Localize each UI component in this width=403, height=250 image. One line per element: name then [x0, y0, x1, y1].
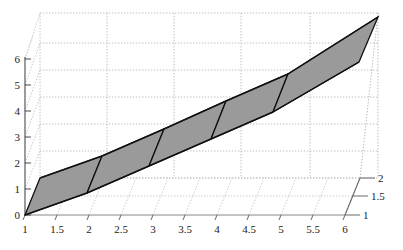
z-tick-label: 0 [15, 210, 21, 221]
x-tick-label: 1 [22, 224, 28, 235]
z-tick-label: 6 [15, 54, 21, 65]
z-tick-label: 3 [15, 132, 21, 143]
z-tick-label: 4 [15, 106, 21, 117]
x-tick-label: 5.5 [306, 224, 320, 235]
surface-mesh [25, 17, 378, 215]
x-tick-label: 2 [86, 224, 92, 235]
surface-patch [273, 17, 378, 112]
x-axis-ticks [23, 215, 345, 220]
x-tick-label: 4.5 [242, 224, 256, 235]
z-tick-label: 2 [15, 158, 21, 169]
y-tick-label: 1.5 [371, 191, 385, 202]
plot-canvas [0, 0, 403, 250]
y-tick-label: 1 [363, 210, 369, 221]
surface-plot-figure: 1 1.5 2 2.5 3 3.5 4 4.5 5 5.5 6 0 1 2 3 … [0, 0, 403, 250]
z-axis-ticks [25, 59, 31, 215]
surface-back-edge [40, 17, 378, 178]
z-tick-label: 1 [15, 184, 21, 195]
z-tick-label: 5 [15, 80, 21, 91]
y-tick-label: 2 [378, 173, 384, 184]
back-wall-grid [40, 13, 378, 178]
x-tick-label: 4 [214, 224, 220, 235]
x-tick-label: 2.5 [114, 224, 128, 235]
x-tick-label: 6 [342, 224, 348, 235]
x-tick-label: 3.5 [178, 224, 192, 235]
x-tick-label: 3 [150, 224, 156, 235]
x-tick-label: 1.5 [50, 224, 64, 235]
x-tick-label: 5 [278, 224, 284, 235]
